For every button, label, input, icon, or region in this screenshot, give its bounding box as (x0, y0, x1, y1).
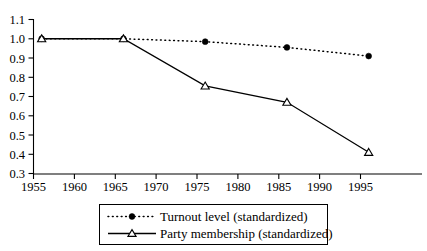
chart-container: 0.3 0.4 0.5 0.6 0.7 0.8 0.9 1.0 1.1 1955… (0, 0, 427, 251)
series-party-membership (38, 35, 373, 156)
axes (34, 19, 423, 174)
series-layer (38, 35, 373, 156)
x-tick-label: 1975 (185, 180, 210, 194)
y-tick-label: 1.0 (9, 32, 25, 46)
data-point-filled-circle-icon (366, 53, 372, 59)
x-tick-label: 1995 (348, 180, 373, 194)
data-point-filled-circle-icon (284, 45, 290, 51)
y-axis-ticks: 0.3 0.4 0.5 0.6 0.7 0.8 0.9 1.0 1.1 (9, 13, 33, 181)
legend-filled-circle-icon (129, 214, 135, 220)
y-tick-label: 0.4 (9, 148, 25, 162)
legend-label: Turnout level (standardized) (160, 209, 308, 224)
series-line (42, 39, 369, 153)
x-tick-label: 1980 (225, 180, 250, 194)
x-tick-label: 1970 (144, 180, 169, 194)
data-point-open-triangle-icon (365, 148, 373, 155)
x-tick-label: 1985 (266, 180, 291, 194)
legend-label: Party membership (standardized) (160, 226, 333, 241)
data-point-filled-circle-icon (202, 39, 208, 45)
line-chart: 0.3 0.4 0.5 0.6 0.7 0.8 0.9 1.0 1.1 1955… (0, 0, 427, 251)
y-tick-label: 0.5 (9, 129, 25, 143)
legend: Turnout level (standardized) Party membe… (100, 205, 333, 245)
x-tick-label: 1965 (103, 180, 128, 194)
x-axis-ticks: 1955 1960 1965 1970 1975 1980 1985 1990 … (21, 174, 373, 194)
y-tick-label: 1.1 (9, 13, 25, 27)
data-point-open-triangle-icon (201, 82, 209, 89)
y-tick-label: 0.9 (9, 52, 25, 66)
y-tick-label: 0.6 (9, 109, 25, 123)
y-tick-label: 0.7 (9, 90, 25, 104)
x-tick-label: 1990 (307, 180, 332, 194)
y-tick-label: 0.8 (9, 71, 25, 85)
x-tick-label: 1955 (21, 180, 46, 194)
x-tick-label: 1960 (62, 180, 87, 194)
